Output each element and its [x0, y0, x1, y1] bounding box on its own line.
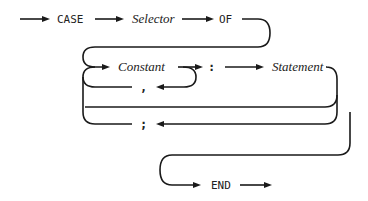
arrow-icon	[256, 64, 264, 70]
constant-nonterminal: Constant	[118, 59, 165, 74]
arrow-icon	[116, 16, 124, 22]
selector-nonterminal: Selector	[132, 11, 176, 26]
colon-symbol: :	[208, 60, 215, 74]
semicolon-symbol: ;	[140, 117, 147, 131]
end-keyword: END	[211, 179, 231, 192]
arrow-icon	[193, 182, 201, 188]
arrow-icon	[195, 64, 203, 70]
row-constant-statement: Constant : Statement	[83, 47, 337, 107]
row-case-selector-of: CASE Selector OF	[20, 11, 270, 47]
arrow-icon	[156, 84, 164, 90]
arrow-icon	[42, 16, 50, 22]
case-syntax-diagram: CASE Selector OF Constant : Statement , …	[0, 0, 368, 201]
of-keyword: OF	[219, 13, 232, 26]
case-keyword: CASE	[57, 13, 84, 26]
comma-symbol: ,	[140, 80, 147, 94]
arrow-icon	[206, 16, 214, 22]
arrow-icon	[102, 64, 110, 70]
arrow-icon	[264, 182, 272, 188]
statement-nonterminal: Statement	[272, 59, 324, 74]
arrow-icon	[156, 121, 164, 127]
semicolon-loop: ;	[83, 77, 337, 131]
